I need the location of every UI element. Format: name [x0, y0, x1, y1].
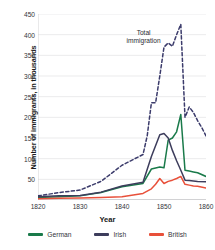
- chart-annotation-total-immigration: Total immigration: [122, 29, 166, 45]
- y-tick-label: 400: [24, 31, 35, 38]
- legend-label: German: [47, 231, 71, 238]
- plot-area: 5010015020025030035040045018201830184018…: [38, 14, 206, 200]
- x-tick-label: 1830: [73, 203, 88, 210]
- chart-legend: GermanIrishBritish: [0, 231, 215, 238]
- y-tick-label: 150: [24, 135, 35, 142]
- x-tick-label: 1850: [157, 203, 172, 210]
- legend-label: British: [168, 231, 187, 238]
- series-line-german: [38, 114, 206, 197]
- x-axis-title: Year: [0, 215, 215, 224]
- y-tick-label: 100: [24, 155, 35, 162]
- y-tick-label: 350: [24, 52, 35, 59]
- legend-item-german[interactable]: German: [28, 231, 71, 238]
- legend-item-british[interactable]: British: [149, 231, 187, 238]
- legend-item-irish[interactable]: Irish: [94, 231, 126, 238]
- y-tick-label: 50: [28, 176, 35, 183]
- legend-swatch-icon: [149, 233, 164, 235]
- y-tick-label: 450: [24, 11, 35, 18]
- x-tick-label: 1860: [199, 203, 214, 210]
- immigration-line-chart: Number of immigrants, in thousands 50100…: [0, 0, 215, 250]
- y-tick-label: 200: [24, 114, 35, 121]
- y-tick-label: 250: [24, 93, 35, 100]
- legend-swatch-icon: [94, 233, 109, 235]
- x-tick-label: 1840: [115, 203, 130, 210]
- legend-label: Irish: [113, 231, 126, 238]
- x-tick-label: 1820: [31, 203, 46, 210]
- legend-swatch-icon: [28, 233, 43, 235]
- y-tick-label: 300: [24, 73, 35, 80]
